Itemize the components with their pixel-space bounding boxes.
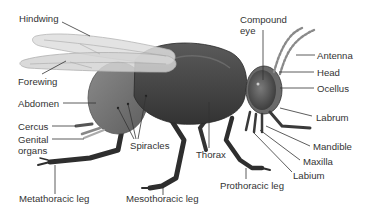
antenna-shape xyxy=(274,28,314,74)
mesothoracic-leg-shape xyxy=(142,118,184,188)
compound-eye-shape xyxy=(248,70,276,110)
fly-anatomy-diagram: Hindwing Forewing Abdomen Cercus Genital… xyxy=(0,0,368,211)
label-metathoracic-leg: Metathoracic leg xyxy=(19,193,89,204)
label-mesothoracic-leg: Mesothoracic leg xyxy=(126,193,199,204)
label-cercus: Cercus xyxy=(18,121,48,132)
label-spiracles: Spiracles xyxy=(130,140,169,151)
label-head: Head xyxy=(317,67,340,78)
label-compound-eye-line2: eye xyxy=(240,25,255,36)
label-antenna: Antenna xyxy=(317,50,353,61)
label-hindwing: Hindwing xyxy=(19,13,58,24)
mouthparts-shape xyxy=(246,112,310,132)
label-prothoracic-leg: Prothoracic leg xyxy=(220,180,284,191)
label-maxilla: Maxilla xyxy=(303,156,333,167)
label-genital-organs-line1: Genital xyxy=(18,134,48,145)
label-ocellus: Ocellus xyxy=(317,83,349,94)
label-forewing: Forewing xyxy=(18,76,57,87)
label-abdomen: Abdomen xyxy=(18,98,59,109)
label-compound-eye-line1: Compound xyxy=(240,14,287,25)
label-labium: Labium xyxy=(293,170,324,181)
label-thorax: Thorax xyxy=(196,149,226,160)
label-labrum: Labrum xyxy=(316,112,349,123)
label-genital-organs-line2: organs xyxy=(18,145,47,156)
label-mandible: Mandible xyxy=(313,141,352,152)
